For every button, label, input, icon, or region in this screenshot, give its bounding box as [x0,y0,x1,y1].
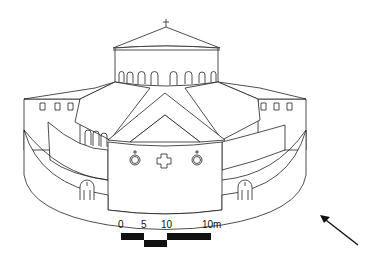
drum [115,46,218,86]
scale-label-10m: 10m [202,220,221,230]
scale-bar [121,233,211,247]
scale-label-10: 10 [161,220,172,230]
scale-label-0: 0 [118,220,124,230]
cross-icon [163,19,169,27]
arrow-northwest-icon [320,215,358,245]
door-right [238,180,252,200]
drum-roof [113,27,220,48]
door-left [80,180,94,200]
scale-label-5: 5 [141,220,147,230]
building-drawing [0,0,377,267]
front-wall [108,142,222,214]
